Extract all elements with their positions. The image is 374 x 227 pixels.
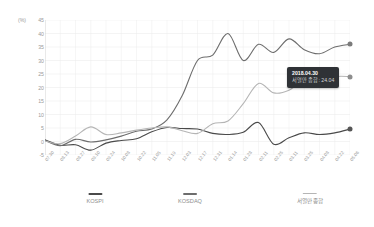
legend-label: KOSPI — [86, 198, 103, 204]
x-axis-tick: 04.08 — [319, 150, 330, 162]
x-axis-tick: 10.08 — [120, 150, 131, 162]
chart-container: (%) 454035302520151050-5 07.3008.1308.27… — [0, 0, 374, 227]
x-axis-tick: 12.03 — [181, 150, 192, 162]
x-axis-tick: 01.28 — [242, 150, 253, 162]
legend-label: KOSDAQ — [178, 198, 202, 204]
x-axis-tick: 02.25 — [273, 150, 284, 162]
legend-item-KOSPI[interactable]: KOSPI — [86, 193, 103, 204]
tooltip-date: 2018.04.30 — [292, 70, 334, 77]
legend-label: 서열만 종합 — [297, 197, 324, 205]
x-axis-tick: 04.22 — [334, 150, 345, 162]
x-axis-tick: 09.24 — [105, 150, 116, 162]
x-axis-tick: 10.22 — [136, 150, 147, 162]
legend-swatch — [88, 193, 102, 195]
x-axis-tick: 08.27 — [75, 150, 86, 162]
x-axis-tick: 07.30 — [44, 150, 55, 162]
x-axis-tick: 03.25 — [303, 150, 314, 162]
legend-item-KOSDAQ[interactable]: KOSDAQ — [178, 193, 202, 204]
series-endpoint-marker — [348, 127, 353, 132]
x-axis-tick: 03.11 — [288, 150, 299, 162]
x-axis-tick: 08.13 — [59, 150, 70, 162]
legend-item-서열만 종합[interactable]: 서열만 종합 — [297, 193, 324, 205]
chart-legend: KOSPIKOSDAQ서열만 종합 — [0, 193, 374, 219]
x-axis-tick: 02.11 — [258, 150, 269, 162]
x-axis-tick: 05.06 — [349, 150, 360, 162]
series-endpoint-marker — [348, 74, 353, 79]
x-axis-tick: 12.31 — [212, 150, 223, 162]
x-axis-tick: 01.14 — [227, 150, 238, 162]
tooltip-value: 서열만 종합: 24.04 — [292, 77, 334, 84]
x-axis-tick: 09.10 — [90, 150, 101, 162]
legend-swatch — [303, 193, 317, 194]
x-axis-tick: 11.05 — [151, 150, 162, 162]
x-axis-tick: 12.17 — [197, 150, 208, 162]
series-endpoint-marker — [348, 42, 353, 47]
chart-tooltip: 2018.04.30 서열만 종합: 24.04 — [287, 67, 339, 88]
x-axis-tick: 11.19 — [166, 150, 177, 162]
legend-swatch — [183, 193, 197, 195]
